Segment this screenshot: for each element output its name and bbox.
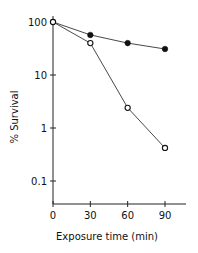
x-tick-label: 30 [84,210,97,221]
x-tick-label: 90 [159,210,172,221]
x-axis-label: Exposure time (min) [56,231,158,242]
series-line [53,22,165,148]
axes [53,16,186,204]
series-line [53,22,165,49]
survival-chart: 1001010.1 0306090 % Survival Exposure ti… [0,0,198,253]
y-tick-label: 0.1 [31,176,47,187]
y-tick-label: 1 [41,123,47,134]
open-circle-marker [88,40,93,45]
data-series [50,19,168,150]
filled-circle-marker [125,40,131,46]
x-tick-label: 0 [50,210,56,221]
y-tick-label: 100 [28,17,47,28]
y-ticks: 1001010.1 [28,17,56,187]
open-circle-marker [50,19,55,24]
y-tick-label: 10 [34,70,47,81]
open-circle-marker [125,105,130,110]
filled-circle-marker [162,46,168,52]
x-tick-label: 60 [121,210,134,221]
filled-circle-marker [88,32,94,38]
open-circle-marker [162,145,167,150]
y-axis-label: % Survival [9,91,20,144]
